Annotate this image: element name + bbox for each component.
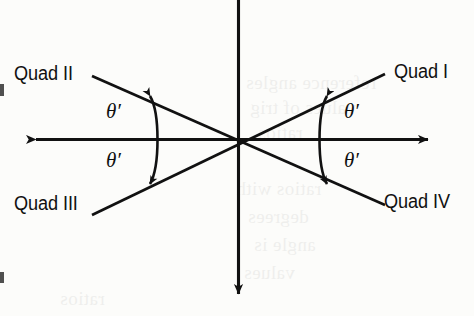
quadrant-label-2: Quad II — [14, 62, 73, 85]
angle-label-quad-1: θ′ — [344, 99, 359, 124]
quadrant-label-4: Quad IV — [384, 190, 450, 213]
quadrant-label-3: Quad III — [14, 192, 78, 215]
reference-angle-figure: reference angles values of trig ratios r… — [0, 0, 474, 316]
axes-artwork — [0, 0, 474, 316]
quadrant-label-1: Quad I — [394, 60, 448, 83]
angle-label-quad-4: θ′ — [344, 148, 359, 173]
angle-label-quad-3: θ′ — [106, 148, 121, 173]
angle-label-quad-2: θ′ — [106, 99, 121, 124]
